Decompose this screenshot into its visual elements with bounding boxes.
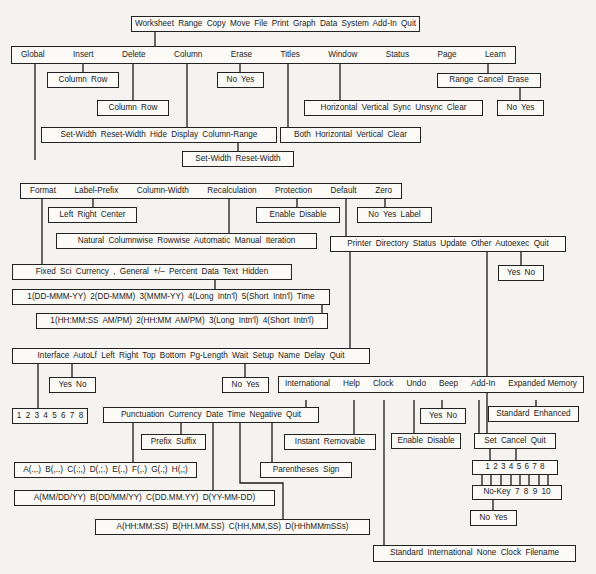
menu-item-column: Column	[174, 51, 202, 59]
beep-submenu: Yes No	[420, 408, 466, 424]
other-item-clock: Clock	[373, 380, 393, 388]
undo-submenu: Enable Disable	[391, 433, 461, 449]
time-formats-submenu: 1(HH:MM:SS AM/PM) 2(HH:MM AM/PM) 3(Long …	[36, 313, 328, 329]
recalculation-submenu: Natural Columnwise Rowwise Automatic Man…	[56, 233, 317, 249]
erase-submenu: No Yes	[217, 72, 264, 88]
other-menu: International Help Clock Undo Beep Add-I…	[278, 376, 584, 393]
column-range-submenu: Set-Width Reset-Width	[182, 151, 294, 167]
global-item-format: Format	[30, 187, 56, 195]
addin-submenu: Set Cancel Quit	[474, 433, 556, 449]
learn-submenu: Range Cancel Erase	[437, 73, 541, 88]
autolf-submenu: Yes No	[49, 377, 96, 393]
other-item-beep: Beep	[439, 380, 458, 388]
format-submenu: Fixed Sci Currency , General +/– Percent…	[12, 264, 292, 280]
menu-item-global: Global	[21, 51, 45, 59]
addin-key-submenu: No-Key 7 8 9 10	[472, 485, 562, 500]
zero-submenu: No Yes Label	[357, 207, 432, 223]
other-item-add-in: Add-In	[471, 380, 495, 388]
label-prefix-submenu: Left Right Center	[48, 207, 137, 223]
negative-submenu: Parentheses Sign	[260, 462, 352, 478]
menu-item-learn: Learn	[485, 51, 506, 59]
printer-submenu: Interface AutoLf Left Right Top Bottom P…	[12, 348, 370, 364]
addin-set-submenu: 1 2 3 4 5 6 7 8	[472, 460, 558, 475]
interface-submenu: 1 2 3 4 5 6 7 8	[12, 408, 88, 424]
menu-item-titles: Titles	[281, 51, 300, 59]
clock-submenu: Standard International None Clock Filena…	[373, 545, 576, 562]
global-item-protection: Protection	[275, 187, 312, 195]
delete-submenu: Column Row	[97, 100, 169, 116]
menu-item-window: Window	[328, 51, 357, 59]
menu-item-erase: Erase	[231, 51, 252, 59]
menu-item-page: Page	[437, 51, 456, 59]
column-submenu: Set-Width Reset-Width Hide Display Colum…	[41, 127, 277, 143]
other-item-undo: Undo	[406, 380, 426, 388]
addin-yesno-submenu: No Yes	[470, 510, 517, 526]
menu-item-insert: Insert	[73, 51, 93, 59]
menu-item-status: Status	[386, 51, 409, 59]
global-item-column-width: Column-Width	[137, 187, 189, 195]
titles-submenu: Both Horizontal Vertical Clear	[280, 127, 421, 143]
global-item-default: Default	[331, 187, 357, 195]
learn-erase-submenu: No Yes	[497, 100, 544, 116]
protection-submenu: Enable Disable	[256, 207, 340, 223]
global-item-recalculation: Recalculation	[207, 187, 256, 195]
global-item-label-prefix: Label-Prefix	[75, 187, 119, 195]
currency-submenu: Prefix Suffix	[141, 434, 206, 450]
menu-item-delete: Delete	[122, 51, 146, 59]
global-menu: Format Label-Prefix Column-Width Recalcu…	[20, 183, 402, 199]
autoexec-submenu: Yes No	[498, 265, 544, 281]
root-menu: Worksheet Range Copy Move File Print Gra…	[131, 16, 420, 32]
insert-submenu: Column Row	[47, 72, 119, 88]
other-item-expanded-memory: Expanded Memory	[508, 380, 577, 388]
default-submenu: Printer Directory Status Update Other Au…	[330, 236, 566, 252]
time-intl-submenu: A(HH:MM:SS) B(HH.MM.SS) C(HH,MM,SS) D(HH…	[95, 519, 370, 535]
expanded-memory-submenu: Standard Enhanced	[488, 406, 579, 422]
other-item-help: Help	[343, 380, 360, 388]
global-item-zero: Zero	[375, 187, 392, 195]
other-item-international: International	[285, 380, 330, 388]
international-submenu: Punctuation Currency Date Time Negative …	[103, 407, 319, 423]
help-submenu: Instant Removable	[284, 434, 376, 450]
window-submenu: Horizontal Vertical Sync Unsync Clear	[304, 100, 483, 116]
wait-submenu: No Yes	[222, 377, 269, 393]
punctuation-submenu: A(.,.) B(,..) C(.;,) D(,;.) E(.,) F(,.) …	[14, 462, 197, 478]
worksheet-menu: Global Insert Delete Column Erase Titles…	[11, 46, 516, 64]
date-intl-submenu: A(MM/DD/YY) B(DD/MM/YY) C(DD.MM.YY) D(YY…	[14, 490, 275, 506]
date-formats-submenu: 1(DD-MMM-YY) 2(DD-MMM) 3(MMM-YY) 4(Long …	[12, 289, 330, 305]
